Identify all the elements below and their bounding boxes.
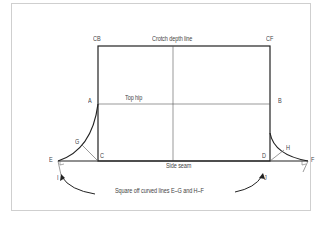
label-d: D xyxy=(262,153,266,160)
arrow-right xyxy=(235,176,262,192)
line-e-i xyxy=(58,161,61,175)
label-side-seam: Side seam xyxy=(166,163,191,170)
crotch-rectangle xyxy=(98,46,270,161)
label-top-hip: Top hip xyxy=(125,95,142,102)
label-cb: CB xyxy=(93,36,101,43)
label-j: J xyxy=(264,175,267,182)
line-f-j xyxy=(303,161,308,172)
label-c: C xyxy=(100,153,104,160)
right-angle-mark-right xyxy=(302,161,306,165)
line-g-c xyxy=(82,145,98,161)
instruction-caption: Square off curved lines E–G and H–F xyxy=(115,188,204,195)
label-i: I xyxy=(57,175,58,182)
crotch-curve-back xyxy=(58,104,98,161)
label-a: A xyxy=(88,98,92,105)
arrow-left xyxy=(62,177,95,194)
label-h: H xyxy=(286,145,290,152)
label-f: F xyxy=(311,157,314,164)
label-b: B xyxy=(278,98,282,105)
label-crotch-depth-line: Crotch depth line xyxy=(152,36,192,43)
label-cf: CF xyxy=(266,36,273,43)
right-angle-mark-left xyxy=(60,161,64,165)
label-e: E xyxy=(49,157,53,164)
line-h-d xyxy=(270,150,284,161)
label-g: G xyxy=(75,139,79,146)
